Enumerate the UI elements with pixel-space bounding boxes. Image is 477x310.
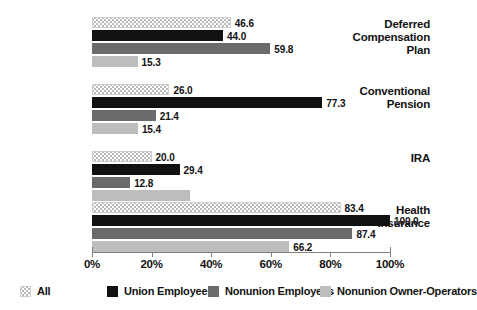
x-axis-tick — [330, 252, 331, 257]
bar-group: 20.029.412.8 — [92, 151, 390, 203]
bar-row: 100.0 — [92, 215, 390, 226]
bar-value-label: 66.2 — [293, 241, 312, 252]
x-axis-tick-label: 20% — [140, 258, 162, 270]
bar-row: 44.0 — [92, 30, 390, 41]
x-axis-tick-label: 0% — [84, 258, 100, 270]
bar-value-label: 59.8 — [274, 43, 293, 54]
bar-row: 77.3 — [92, 97, 390, 108]
bar — [92, 151, 152, 162]
bar-value-label: 20.0 — [156, 151, 175, 162]
legend-item[interactable]: All — [20, 283, 50, 299]
x-axis-tick — [92, 252, 93, 257]
bar-group: 46.644.059.815.3 — [92, 17, 390, 69]
bar — [92, 177, 130, 188]
bar-row: 12.8 — [92, 177, 390, 188]
bar — [92, 30, 223, 41]
legend: AllUnion EmployeesNonunion EmployeesNonu… — [0, 283, 430, 299]
bar-row: 21.4 — [92, 110, 390, 121]
bar — [92, 164, 180, 175]
legend-swatch-icon — [107, 286, 118, 297]
bar — [92, 97, 322, 108]
bar — [92, 202, 341, 213]
bar-row: 66.2 — [92, 241, 390, 252]
bar — [92, 215, 390, 226]
x-axis-tick-label: 100% — [376, 258, 405, 270]
legend-item[interactable]: Nonunion Owner-Operators — [320, 283, 477, 299]
x-axis-tick-label: 40% — [200, 258, 222, 270]
x-axis-tick-label: 60% — [260, 258, 282, 270]
x-axis-tick — [152, 252, 153, 257]
bar — [92, 43, 270, 54]
bar — [92, 84, 169, 95]
bar-value-label: 46.6 — [235, 17, 254, 28]
bar-value-label: 77.3 — [326, 97, 345, 108]
x-axis-tick — [211, 252, 212, 257]
bar-row: 83.4 — [92, 202, 390, 213]
bar — [92, 241, 289, 252]
x-axis-tick — [271, 252, 272, 257]
plot-area: 46.644.059.815.326.077.321.415.420.029.4… — [92, 12, 390, 250]
bar-group: 26.077.321.415.4 — [92, 84, 390, 136]
legend-item[interactable]: Union Employees — [107, 283, 213, 299]
bar-row: 29.4 — [92, 164, 390, 175]
legend-swatch-icon — [20, 286, 31, 297]
legend-label: All — [37, 285, 50, 297]
bar-value-label: 100.0 — [394, 215, 419, 226]
bar-row: 15.3 — [92, 56, 390, 67]
bar-value-label: 26.0 — [173, 84, 192, 95]
bar-value-label: 29.4 — [184, 164, 203, 175]
bar-row: 26.0 — [92, 84, 390, 95]
bar-row: 20.0 — [92, 151, 390, 162]
bar — [92, 123, 138, 134]
bar-row: 46.6 — [92, 17, 390, 28]
bar-value-label: 12.8 — [134, 177, 153, 188]
bar-row: 15.4 — [92, 123, 390, 134]
legend-label: Union Employees — [124, 285, 213, 297]
bar-value-label: 15.3 — [142, 56, 161, 67]
bar — [92, 56, 138, 67]
x-axis-line — [92, 252, 391, 253]
legend-label: Nonunion Employees — [225, 285, 334, 297]
bar-row — [92, 190, 390, 201]
legend-item[interactable]: Nonunion Employees — [208, 283, 334, 299]
bar-row: 87.4 — [92, 228, 390, 239]
legend-swatch-icon — [320, 286, 331, 297]
legend-label: Nonunion Owner-Operators — [337, 285, 477, 297]
bar — [92, 190, 190, 201]
bar — [92, 17, 231, 28]
bar-row: 59.8 — [92, 43, 390, 54]
x-axis-tick — [390, 252, 391, 257]
x-axis-tick-label: 80% — [319, 258, 341, 270]
bar-value-label: 21.4 — [160, 110, 179, 121]
bar-value-label: 87.4 — [356, 228, 375, 239]
bar — [92, 110, 156, 121]
bar — [92, 228, 352, 239]
bar-group: 83.4100.087.466.2 — [92, 202, 390, 254]
bar-value-label: 44.0 — [227, 30, 246, 41]
bar-value-label: 83.4 — [345, 202, 364, 213]
bar-value-label: 15.4 — [142, 123, 161, 134]
legend-swatch-icon — [208, 286, 219, 297]
